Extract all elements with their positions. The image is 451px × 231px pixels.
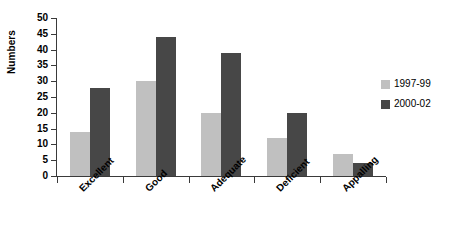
bar (70, 132, 90, 176)
y-axis-tick-value: 25 (4, 92, 48, 102)
y-axis-tick-label: 35 (0, 60, 48, 70)
y-axis-tick (51, 176, 56, 177)
y-axis-tick-label: 40 (0, 45, 48, 55)
y-axis-tick-label: 10 (0, 139, 48, 149)
legend-item: 2000-02 (381, 96, 431, 112)
bar (201, 113, 221, 176)
y-axis-tick-value: 0 (4, 171, 48, 181)
y-axis-tick-label: 0 (0, 171, 48, 181)
bar-group (57, 18, 123, 176)
y-axis-tick (51, 113, 56, 114)
x-axis-tick (386, 177, 387, 183)
y-axis-tick-label: 20 (0, 108, 48, 118)
y-axis-tick (51, 18, 56, 19)
bar (333, 154, 353, 176)
legend-item: 1997-99 (381, 76, 431, 92)
legend-item-label: 2000-02 (394, 99, 431, 109)
x-axis-tick (123, 177, 124, 183)
legend-item-label: 1997-99 (394, 79, 431, 89)
legend: 1997-99 2000-02 (381, 76, 431, 116)
bars-layer (57, 18, 386, 176)
bar (136, 81, 156, 176)
bar-group (320, 18, 386, 176)
legend-swatch-icon (381, 100, 390, 109)
y-axis-tick (51, 97, 56, 98)
bar-group (254, 18, 320, 176)
x-axis-tick (189, 177, 190, 183)
x-axis-tick (57, 177, 58, 183)
bar-group (123, 18, 189, 176)
bar-group (189, 18, 255, 176)
y-axis-tick-value: 45 (4, 29, 48, 39)
bar (156, 37, 176, 176)
y-axis-tick-label: 15 (0, 124, 48, 134)
y-axis-tick (51, 81, 56, 82)
y-axis-tick-value: 15 (4, 124, 48, 134)
y-axis-tick (51, 50, 56, 51)
y-axis-tick-value: 40 (4, 45, 48, 55)
y-axis-tick-label: 30 (0, 76, 48, 86)
y-axis-tick-label: 25 (0, 92, 48, 102)
bar (267, 138, 287, 176)
y-axis-tick-label: 5 (0, 155, 48, 165)
y-axis-tick (51, 129, 56, 130)
y-axis-tick (51, 144, 56, 145)
y-axis-tick-value: 20 (4, 108, 48, 118)
y-axis-tick-label: 45 (0, 29, 48, 39)
y-axis-tick-value: 50 (4, 13, 48, 23)
y-axis-tick-value: 5 (4, 155, 48, 165)
x-axis-tick (320, 177, 321, 183)
y-axis-tick (51, 160, 56, 161)
y-axis-tick (51, 34, 56, 35)
y-axis-tick-value: 10 (4, 139, 48, 149)
y-axis-tick-value: 30 (4, 76, 48, 86)
y-axis-tick (51, 65, 56, 66)
bar-chart: Numbers 05101520253035404550 ExcellentGo… (0, 0, 451, 231)
y-axis-tick-label: 50 (0, 13, 48, 23)
y-axis-tick-value: 35 (4, 60, 48, 70)
legend-swatch-icon (381, 80, 390, 89)
x-axis-tick (254, 177, 255, 183)
